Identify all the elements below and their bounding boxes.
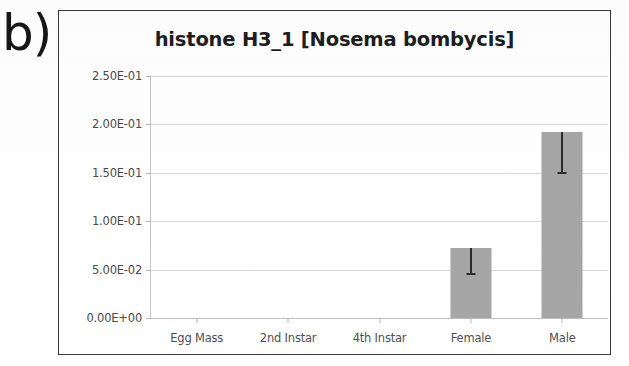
x-axis-tick-label: Egg Mass [170,331,223,345]
bar-group: Egg Mass [151,76,242,318]
x-axis-tick-label: 2nd Instar [260,331,317,345]
y-axis-tick-label: 2.50E-01 [92,69,142,83]
y-axis-tick-label: 2.00E-01 [92,117,142,131]
error-bar [561,132,563,174]
chart-title: histone H3_1 [Nosema bombycis] [59,28,610,51]
panel-label: b) [2,8,51,58]
bar-group: Female [425,76,516,318]
bar-group: 2nd Instar [242,76,333,318]
x-axis-tick-mark [379,318,380,323]
x-axis-tick-label: 4th Instar [353,331,407,345]
error-bar [470,248,472,275]
y-axis-tick-label: 5.00E-02 [92,263,142,277]
plot-area: 2.50E-012.00E-011.50E-011.00E-015.00E-02… [151,76,608,318]
y-axis-tick-mark [146,318,151,319]
x-axis-tick-label: Male [549,331,575,345]
x-axis-tick-mark [196,318,197,323]
bar-group: 4th Instar [334,76,425,318]
bar-series: Egg Mass2nd Instar4th InstarFemaleMale [151,76,608,318]
x-axis-tick-mark [288,318,289,323]
x-axis-tick-label: Female [451,331,491,345]
bar-group: Male [517,76,608,318]
error-bar-cap [466,273,475,275]
x-axis-tick-mark [470,318,471,323]
y-axis-tick-label: 1.00E-01 [92,214,142,228]
y-axis-tick-label: 0.00E+00 [86,311,142,325]
error-bar-cap [558,172,567,174]
y-axis-tick-label: 1.50E-01 [92,166,142,180]
chart-container: histone H3_1 [Nosema bombycis] 2.50E-012… [58,10,611,355]
x-axis-tick-mark [562,318,563,323]
